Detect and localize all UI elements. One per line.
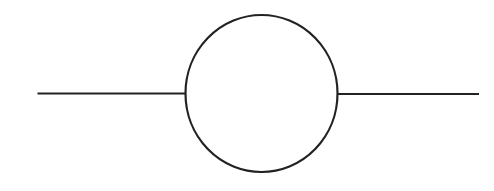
diagram-canvas — [0, 0, 494, 191]
circle-element-diagram — [0, 0, 494, 191]
circle-symbol — [186, 15, 338, 172]
